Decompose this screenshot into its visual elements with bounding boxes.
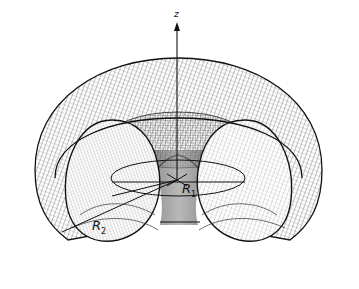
r2-label: R2 (92, 218, 106, 236)
z-axis-label: z (174, 9, 179, 19)
z-label-text: z (174, 9, 179, 19)
left-cross-section (65, 120, 159, 241)
r1-label-main: R (182, 181, 191, 196)
r2-label-sub: 2 (101, 227, 106, 236)
torus-diagram (0, 0, 359, 289)
r2-label-main: R (92, 218, 101, 233)
r1-label: R1 (182, 181, 196, 199)
r1-label-sub: 1 (191, 190, 196, 199)
